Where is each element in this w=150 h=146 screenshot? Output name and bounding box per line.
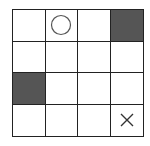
grid-cell-r3-c3-cross[interactable] bbox=[111, 105, 144, 137]
grid-cell-r1-c0[interactable] bbox=[13, 42, 46, 74]
grid-cell-r3-c0[interactable] bbox=[13, 105, 46, 137]
grid-cell-r2-c0-filled[interactable] bbox=[13, 73, 46, 105]
game-board bbox=[12, 9, 144, 137]
grid-cell-r1-c2[interactable] bbox=[78, 42, 111, 74]
grid-cell-r0-c1-circle[interactable] bbox=[46, 10, 79, 42]
grid-cell-r1-c3[interactable] bbox=[111, 42, 144, 74]
grid-cell-r0-c2[interactable] bbox=[78, 10, 111, 42]
cross-icon bbox=[119, 112, 135, 128]
grid-cell-r0-c3-filled[interactable] bbox=[111, 10, 144, 42]
circle-icon bbox=[50, 14, 72, 36]
grid-cell-r1-c1[interactable] bbox=[46, 42, 79, 74]
grid-cell-r0-c0[interactable] bbox=[13, 10, 46, 42]
grid-cell-r3-c2[interactable] bbox=[78, 105, 111, 137]
grid-cell-r2-c3[interactable] bbox=[111, 73, 144, 105]
grid-cell-r2-c1[interactable] bbox=[46, 73, 79, 105]
grid-cell-r2-c2[interactable] bbox=[78, 73, 111, 105]
grid-cell-r3-c1[interactable] bbox=[46, 105, 79, 137]
